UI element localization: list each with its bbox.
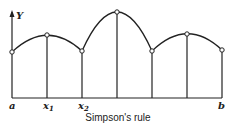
label-b: b bbox=[218, 100, 225, 111]
label-a: a bbox=[9, 100, 15, 111]
point-x5 bbox=[185, 32, 189, 36]
y-axis-arrow-icon bbox=[10, 10, 15, 17]
point-a bbox=[10, 50, 14, 54]
label-x1: x1 bbox=[42, 100, 54, 113]
point-x1 bbox=[45, 33, 49, 37]
diagram-caption: Simpson's rule bbox=[85, 112, 151, 123]
point-b bbox=[220, 48, 224, 52]
label-x1-sub: 1 bbox=[49, 104, 54, 113]
simpsons-rule-diagram: Y a x1 x2 b Simpson's rule bbox=[0, 0, 228, 128]
ordinates bbox=[47, 12, 222, 98]
point-x4 bbox=[150, 49, 154, 53]
point-x2 bbox=[80, 49, 84, 53]
y-axis-label: Y bbox=[16, 10, 24, 21]
point-x3 bbox=[115, 10, 119, 14]
